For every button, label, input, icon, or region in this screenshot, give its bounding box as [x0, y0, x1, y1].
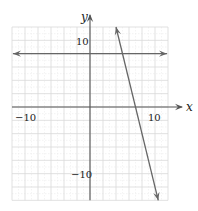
y-tick-label-neg10: −10 — [71, 169, 92, 180]
x-axis-label: x — [186, 100, 193, 114]
y-tick-label-10: 10 — [76, 36, 89, 47]
axis-labels: x y −10 10 10 −10 — [15, 10, 193, 180]
x-tick-label-10: 10 — [148, 112, 161, 123]
x-tick-label-neg10: −10 — [15, 112, 36, 123]
coordinate-plane: x y −10 10 10 −10 — [0, 0, 198, 211]
y-axis-label: y — [80, 10, 88, 24]
